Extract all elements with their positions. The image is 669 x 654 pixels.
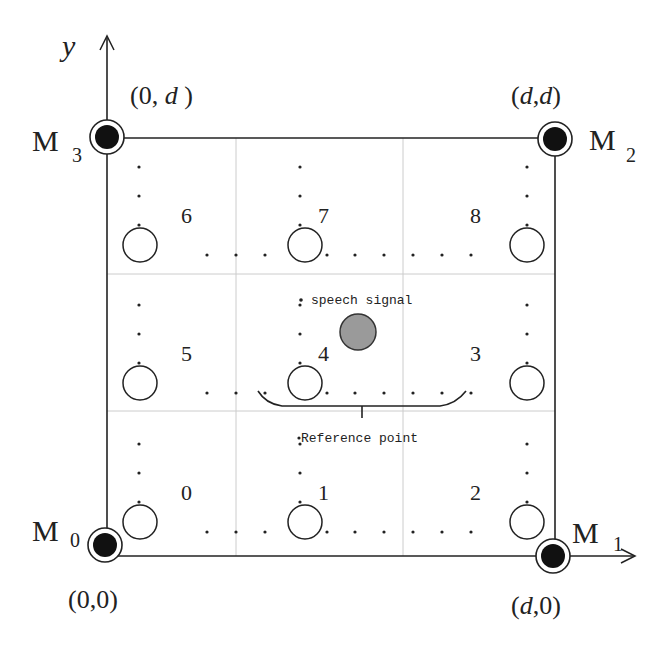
path-dot (440, 391, 443, 394)
position-circle-icon (123, 366, 157, 400)
mic-m0-name: M (32, 514, 59, 547)
path-dot (205, 253, 208, 256)
mic-m1-name: M (572, 516, 599, 549)
position-label: 5 (181, 341, 192, 366)
path-dot (234, 391, 237, 394)
mic-m0-subscript: 0 (70, 529, 80, 551)
reference-brace (258, 391, 466, 418)
mic-m2-coord: (d,d) (511, 81, 561, 110)
grid-lines (107, 138, 555, 556)
path-dot (353, 391, 356, 394)
path-dot (353, 253, 356, 256)
path-dot (205, 391, 208, 394)
position-label: 2 (470, 480, 481, 505)
position-circle-icon (288, 505, 322, 539)
path-dot (137, 471, 140, 474)
path-dot (525, 223, 528, 226)
source-position-4: 4 (288, 341, 329, 400)
reference-point: Reference point (297, 431, 418, 446)
path-dot (382, 253, 385, 256)
path-dot (525, 471, 528, 474)
mic-m2-name: M (589, 123, 616, 156)
source-position-6: 6 (123, 203, 192, 262)
path-dot (263, 391, 266, 394)
path-dot (440, 530, 443, 533)
microphone-icon (95, 125, 119, 149)
mic-m1-coord: (d,0) (511, 591, 561, 620)
y-axis (100, 36, 114, 558)
microphone-icon (541, 544, 565, 568)
position-circle-icon (510, 228, 544, 262)
path-dot (205, 530, 208, 533)
path-dot (525, 500, 528, 503)
path-dot (525, 332, 528, 335)
path-dot (411, 253, 414, 256)
mic-m1-subscript: 1 (613, 533, 623, 555)
path-dot (137, 442, 140, 445)
path-dot (298, 165, 301, 168)
path-dot (525, 303, 528, 306)
position-label: 8 (470, 203, 481, 228)
path-dot (137, 194, 140, 197)
position-label: 7 (318, 203, 329, 228)
path-dot (298, 500, 301, 503)
mic-m3-coord: (0, d ) (130, 81, 193, 110)
position-label: 0 (181, 480, 192, 505)
path-dot (298, 194, 301, 197)
position-circle-icon (510, 505, 544, 539)
microphone-m3: M 3 (0, d ) (32, 81, 193, 166)
microphone-icon (543, 127, 567, 151)
microphone-m0: M 0 (0,0) (32, 514, 122, 614)
path-dot (525, 361, 528, 364)
path-dot (137, 165, 140, 168)
path-dot (234, 253, 237, 256)
path-dot (440, 253, 443, 256)
path-dot (525, 442, 528, 445)
path-dot (469, 391, 472, 394)
path-dot (137, 332, 140, 335)
path-dot (298, 303, 301, 306)
position-label: 3 (470, 341, 481, 366)
microphones: M 3 (0, d ) M 2 (d,d) M 0 (0,0) M 1 (d,0… (32, 81, 636, 620)
source-position-7: 7 (288, 203, 329, 262)
position-label: 1 (318, 480, 329, 505)
microphone-icon (93, 533, 117, 557)
path-dot (298, 223, 301, 226)
path-dot (137, 223, 140, 226)
path-dot (469, 530, 472, 533)
path-dot (298, 361, 301, 364)
position-circle-icon (288, 366, 322, 400)
position-circle-icon (123, 505, 157, 539)
room-frame (107, 138, 555, 556)
microphone-array-diagram: y 012345678 speech signal Reference poin… (0, 0, 669, 654)
mic-m3-name: M (32, 124, 59, 157)
path-dot (469, 253, 472, 256)
source-position-2: 2 (470, 480, 544, 539)
path-dot (525, 165, 528, 168)
mic-m3-subscript: 3 (72, 144, 82, 166)
source-position-5: 5 (123, 341, 192, 400)
source-positions: 012345678 (123, 203, 544, 539)
path-dot (137, 361, 140, 364)
path-dot (525, 194, 528, 197)
path-dot (382, 530, 385, 533)
source-position-0: 0 (123, 480, 192, 539)
reference-point-label: Reference point (301, 431, 418, 446)
path-dot (137, 303, 140, 306)
speech-signal: speech signal (299, 293, 412, 350)
path-dot (325, 391, 328, 394)
path-dot (263, 530, 266, 533)
path-dot (411, 391, 414, 394)
speech-signal-label: speech signal (311, 293, 413, 308)
path-dot (234, 530, 237, 533)
microphone-m2: M 2 (d,d) (511, 81, 636, 166)
path-dot (298, 332, 301, 335)
path-dot (137, 500, 140, 503)
path-dot (298, 471, 301, 474)
position-circle-icon (123, 228, 157, 262)
mic-m2-subscript: 2 (626, 144, 636, 166)
position-label: 6 (181, 203, 192, 228)
position-circle-icon (510, 366, 544, 400)
bullet-icon (299, 298, 303, 302)
mic-m0-coord: (0,0) (68, 585, 118, 614)
